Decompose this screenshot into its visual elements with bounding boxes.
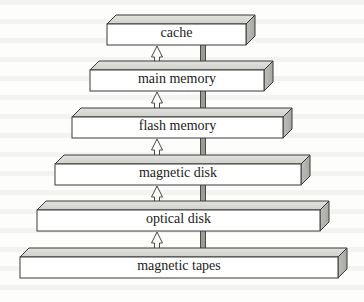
slab-front-face-3 (55, 164, 301, 185)
slab-front-face-0 (107, 24, 246, 45)
slab-top-face-2 (72, 108, 292, 117)
slab-top-face-1 (90, 61, 273, 70)
storage-hierarchy-figure: cachemain memoryflash memorymagnetic dis… (0, 0, 364, 302)
storage-slab-0 (107, 15, 255, 45)
storage-slab-1 (90, 61, 273, 91)
slab-front-face-5 (20, 257, 338, 278)
storage-slab-3 (55, 155, 310, 185)
slab-top-face-0 (107, 15, 255, 24)
slab-top-face-3 (55, 155, 310, 164)
storage-slab-4 (37, 201, 329, 231)
storage-hierarchy-diagram (0, 0, 364, 302)
storage-slab-5 (20, 248, 347, 278)
slab-top-face-5 (20, 248, 347, 257)
slab-front-face-2 (72, 117, 283, 138)
slab-top-face-4 (37, 201, 329, 210)
slab-front-face-1 (90, 70, 264, 91)
storage-slab-2 (72, 108, 292, 138)
slab-front-face-4 (37, 210, 320, 231)
